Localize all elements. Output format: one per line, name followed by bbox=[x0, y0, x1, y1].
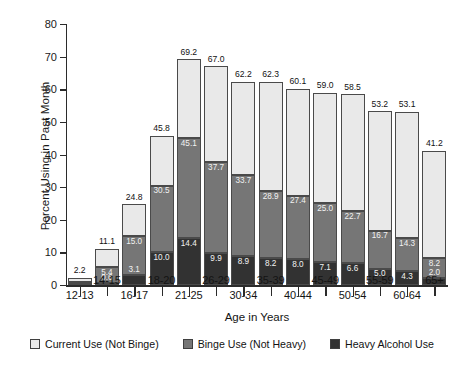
segment-current-use bbox=[313, 93, 337, 204]
segment-current-use bbox=[95, 249, 119, 268]
x-tick-label: 50-54 bbox=[339, 289, 367, 301]
x-tick-label: 16-17 bbox=[120, 289, 148, 301]
bar-heavy-label: 8.0 bbox=[292, 261, 303, 269]
bar-binge-label: 15.0 bbox=[126, 238, 142, 246]
bar-binge-label: 37.7 bbox=[208, 164, 224, 172]
segment-current-use bbox=[422, 151, 446, 259]
bar-heavy-label: 7.1 bbox=[320, 264, 331, 272]
segment-binge-use bbox=[177, 138, 201, 238]
x-tick-mark bbox=[271, 285, 272, 296]
legend-swatch bbox=[30, 339, 40, 349]
bar-heavy-label: 14.4 bbox=[181, 240, 197, 248]
segment-current-use bbox=[368, 111, 392, 230]
y-tick-label: 50 bbox=[45, 116, 57, 128]
bar-binge-label: 27.4 bbox=[290, 197, 306, 205]
bar-group: 53.114.34.3 bbox=[395, 112, 419, 285]
bar-total-label: 11.1 bbox=[99, 237, 115, 246]
segment-current-use bbox=[150, 136, 174, 186]
bar-heavy-label: 4.3 bbox=[401, 273, 412, 281]
chart-legend: Current Use (Not Binge)Binge Use (Not He… bbox=[0, 338, 464, 350]
bar-heavy-label: 9.9 bbox=[210, 255, 221, 263]
x-tick-label: 65+ bbox=[425, 274, 443, 286]
legend-label: Current Use (Not Binge) bbox=[45, 338, 159, 350]
segment-binge-use bbox=[231, 175, 255, 256]
bar-total-label: 69.2 bbox=[180, 48, 197, 57]
legend-item: Heavy Alcohol Use bbox=[330, 338, 434, 350]
bar-group: 53.216.75.0 bbox=[368, 111, 392, 285]
bar-total-label: 60.1 bbox=[290, 77, 307, 86]
x-axis-title: Age in Years bbox=[66, 311, 448, 323]
legend-item: Binge Use (Not Heavy) bbox=[183, 338, 306, 350]
x-tick-label: 30-34 bbox=[230, 289, 258, 301]
segment-current-use bbox=[177, 59, 201, 138]
y-tick-label: 40 bbox=[45, 149, 57, 161]
x-tick-mark bbox=[434, 285, 435, 296]
legend-swatch bbox=[330, 339, 340, 349]
segment-current-use bbox=[204, 66, 228, 162]
bar-group: 41.28.22.0 bbox=[422, 151, 446, 285]
bar-group: 45.830.510.0 bbox=[150, 136, 174, 285]
segment-binge-use bbox=[150, 186, 174, 253]
bar-heavy-label: 8.9 bbox=[238, 258, 249, 266]
x-tick-label: 26-29 bbox=[202, 274, 230, 286]
y-tick-label: 10 bbox=[45, 246, 57, 258]
segment-current-use bbox=[122, 204, 146, 236]
bar-total-label: 58.5 bbox=[344, 83, 361, 92]
x-tick-label: 12-13 bbox=[66, 289, 94, 301]
bar-binge-label: 22.7 bbox=[345, 213, 361, 221]
bar-binge-label: 30.5 bbox=[154, 187, 170, 195]
x-tick-label: 60-64 bbox=[393, 289, 421, 301]
bar-total-label: 53.1 bbox=[399, 100, 416, 109]
bar-group: 67.037.79.9 bbox=[204, 66, 228, 285]
y-tick-label: 80 bbox=[45, 18, 57, 30]
bar-heavy-label: 10.0 bbox=[154, 254, 170, 262]
y-tick-label: 70 bbox=[45, 51, 57, 63]
x-tick-mark bbox=[325, 285, 326, 296]
bar-binge-label: 28.9 bbox=[263, 193, 279, 201]
bar-group: 2.2 bbox=[68, 278, 92, 285]
x-tick-mark bbox=[380, 285, 381, 296]
segment-current-use bbox=[395, 112, 419, 239]
plot-area: 01020304050607080 2.211.15.40.624.815.03… bbox=[66, 24, 448, 285]
bar-group: 59.025.07.1 bbox=[313, 93, 337, 285]
segment-current-use bbox=[286, 89, 310, 196]
bar-total-label: 41.2 bbox=[426, 139, 443, 148]
bar-heavy-label: 8.2 bbox=[265, 260, 276, 268]
bar-group: 60.127.48.0 bbox=[286, 89, 310, 285]
y-tick-label: 20 bbox=[45, 214, 57, 226]
x-tick-mark bbox=[107, 285, 108, 296]
segment-current-use bbox=[259, 82, 283, 191]
bar-group: 62.328.98.2 bbox=[259, 82, 283, 285]
bar-group: 58.522.76.6 bbox=[341, 94, 365, 285]
bar-total-label: 24.8 bbox=[126, 193, 143, 202]
bar-heavy-label: 3.1 bbox=[129, 266, 140, 274]
y-tick-label: 30 bbox=[45, 181, 57, 193]
legend-label: Binge Use (Not Heavy) bbox=[198, 338, 306, 350]
x-tick-mark bbox=[162, 285, 163, 296]
bar-total-label: 62.3 bbox=[262, 70, 279, 79]
bar-binge-label: 8.2 bbox=[429, 260, 440, 268]
x-tick-label: 45-49 bbox=[311, 274, 339, 286]
x-tick-label: 14-15 bbox=[93, 274, 121, 286]
x-tick-label: 18-20 bbox=[148, 274, 176, 286]
segment-current-use bbox=[341, 94, 365, 211]
x-tick-mark bbox=[216, 285, 217, 296]
x-tick-label: 21-25 bbox=[175, 289, 203, 301]
bar-binge-label: 33.7 bbox=[235, 177, 251, 185]
x-tick-label: 40-44 bbox=[284, 289, 312, 301]
y-tick-label: 60 bbox=[45, 83, 57, 95]
x-tick-label: 55-59 bbox=[366, 274, 394, 286]
legend-swatch bbox=[183, 339, 193, 349]
segment-binge-use bbox=[204, 162, 228, 253]
bar-group: 69.245.114.4 bbox=[177, 59, 201, 285]
segment-binge-use bbox=[259, 191, 283, 259]
bar-total-label: 59.0 bbox=[317, 81, 334, 90]
stacked-bar-chart: Percent Using in Past Month 010203040506… bbox=[0, 0, 464, 369]
x-tick-label: 35-39 bbox=[257, 274, 285, 286]
bar-group: 24.815.03.1 bbox=[122, 204, 146, 285]
bar-binge-label: 25.0 bbox=[317, 205, 333, 213]
bars-container: 2.211.15.40.624.815.03.145.830.510.069.2… bbox=[66, 24, 448, 285]
y-tick-label: 0 bbox=[51, 279, 57, 291]
bar-heavy-label: 6.6 bbox=[347, 265, 358, 273]
bar-total-label: 45.8 bbox=[153, 124, 170, 133]
